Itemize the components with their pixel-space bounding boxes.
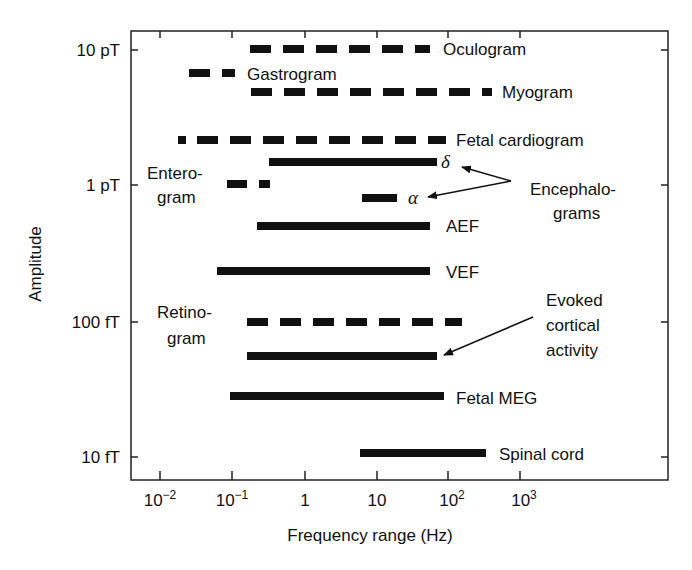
label-alpha: α — [408, 187, 419, 208]
chart-canvas: 10−2 10−1 1 10 102 103 10 pT 1 pT 100 fT… — [0, 0, 692, 570]
y-tick-label-1pT: 1 pT — [86, 176, 120, 195]
x-tick-label-1000: 103 — [511, 488, 537, 510]
y-tick-labels: 10 pT 1 pT 100 fT 10 fT — [72, 41, 120, 467]
y-axis-title: Amplitude — [26, 226, 45, 302]
x-tick-label-0.1: 10−1 — [216, 488, 249, 510]
x-axis-title: Frequency range (Hz) — [287, 526, 452, 545]
x-ticks — [160, 31, 520, 480]
label-fetal-meg: Fetal MEG — [456, 389, 537, 408]
label-entero-line2: gram — [157, 188, 196, 207]
solid-bars — [217, 162, 486, 453]
label-delta: δ — [441, 151, 451, 172]
arrow-to-delta — [462, 167, 511, 181]
x-tick-label-0.01: 10−2 — [144, 488, 177, 510]
x-tick-label-10: 10 — [368, 491, 387, 510]
label-evoked-line1: Evoked — [546, 291, 603, 310]
series-labels: Oculogram Gastrogram Myogram Fetal cardi… — [147, 40, 616, 464]
x-tick-labels: 10−2 10−1 1 10 102 103 — [144, 488, 537, 510]
label-myogram: Myogram — [502, 83, 573, 102]
dashed-bars — [178, 49, 492, 322]
label-evoked-line3: activity — [546, 341, 598, 360]
label-encephalo-line1: Encephalo- — [530, 180, 616, 199]
label-spinal-cord: Spinal cord — [499, 445, 584, 464]
y-tick-label-100fT: 100 fT — [72, 313, 120, 332]
x-tick-label-1: 1 — [300, 491, 309, 510]
y-tick-label-10fT: 10 fT — [81, 448, 120, 467]
label-retino-line1: Retino- — [157, 303, 212, 322]
plot-frame — [131, 31, 668, 480]
label-encephalo-line2: grams — [553, 204, 600, 223]
label-oculogram: Oculogram — [443, 40, 526, 59]
label-retino-line2: gram — [167, 329, 206, 348]
label-entero-line1: Entero- — [147, 164, 203, 183]
x-tick-label-100: 102 — [439, 488, 465, 510]
y-tick-label-10pT: 10 pT — [77, 41, 120, 60]
label-vef: VEF — [446, 263, 479, 282]
label-gastrogram: Gastrogram — [247, 65, 337, 84]
arrow-to-alpha — [428, 181, 511, 197]
annotation-arrows — [428, 167, 533, 355]
label-evoked-line2: cortical — [546, 316, 600, 335]
label-fetal-cardiogram: Fetal cardiogram — [456, 131, 584, 150]
label-aef: AEF — [446, 217, 479, 236]
